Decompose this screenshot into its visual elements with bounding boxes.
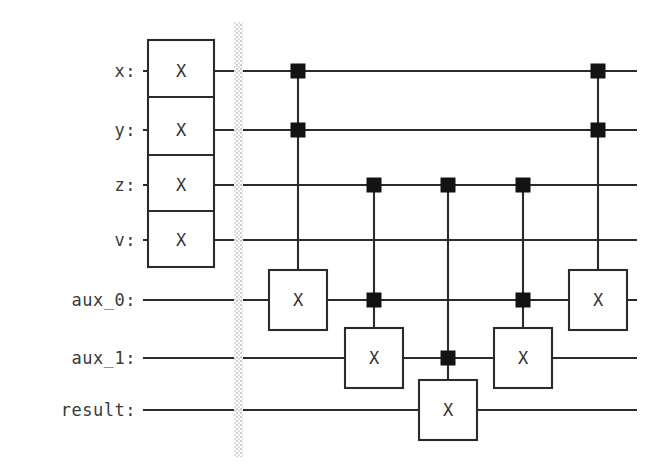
initial-x-gate-z[interactable]: X — [176, 175, 187, 195]
initial-gate-block-layer: XXXX — [148, 40, 214, 267]
wire-label-y: y: — [115, 120, 136, 140]
gate-column-layer: XXXXX — [269, 64, 627, 440]
control-node-col-1-x[interactable] — [291, 64, 305, 78]
control-node-col-4-aux_0[interactable] — [516, 293, 530, 307]
initial-x-gate-v[interactable]: X — [176, 230, 187, 250]
control-node-col-5-x[interactable] — [591, 64, 605, 78]
wire-label-x: x: — [115, 61, 136, 81]
x-gate-label-col-1-aux_0[interactable]: X — [293, 290, 304, 310]
circuit-barrier — [234, 22, 243, 457]
gate-column-col-4: X — [494, 178, 552, 388]
circuit-canvas: x:y:z:v:aux_0:aux_1:result: XXXX XXXXX — [0, 0, 670, 475]
wire-label-z: z: — [115, 175, 136, 195]
control-node-col-2-z[interactable] — [367, 178, 381, 192]
gate-column-col-3: X — [419, 178, 477, 440]
control-node-col-4-z[interactable] — [516, 178, 530, 192]
x-gate-label-col-5-aux_0[interactable]: X — [593, 290, 604, 310]
wire-label-layer: x:y:z:v:aux_0:aux_1:result: — [61, 61, 136, 420]
initial-x-gate-x[interactable]: X — [176, 61, 187, 81]
wire-label-aux_1: aux_1: — [72, 348, 136, 368]
gate-column-col-1: X — [269, 64, 327, 330]
x-gate-label-col-2-aux_1[interactable]: X — [369, 348, 380, 368]
x-gate-label-col-4-aux_1[interactable]: X — [518, 348, 529, 368]
wire-label-aux_0: aux_0: — [72, 290, 136, 310]
wire-label-v: v: — [115, 230, 136, 250]
wire-label-result: result: — [61, 400, 136, 420]
control-node-col-5-y[interactable] — [591, 123, 605, 137]
x-gate-label-col-3-result[interactable]: X — [443, 400, 454, 420]
quantum-circuit-diagram: x:y:z:v:aux_0:aux_1:result: XXXX XXXXX — [0, 0, 670, 475]
control-node-col-3-aux_1[interactable] — [441, 351, 455, 365]
control-node-col-1-y[interactable] — [291, 123, 305, 137]
control-node-col-3-z[interactable] — [441, 178, 455, 192]
initial-x-gate-y[interactable]: X — [176, 120, 187, 140]
gate-column-col-2: X — [345, 178, 403, 388]
barrier-layer — [234, 22, 243, 457]
control-node-col-2-aux_0[interactable] — [367, 293, 381, 307]
gate-column-col-5: X — [569, 64, 627, 330]
